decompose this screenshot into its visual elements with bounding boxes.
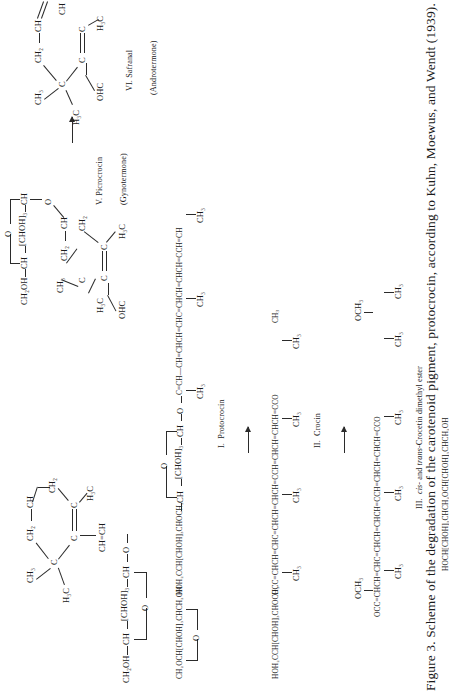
atom-ch3: CH₃ bbox=[196, 208, 205, 223]
label-compound-V-top: V. Picrocrocin bbox=[96, 157, 104, 205]
atom-c: C bbox=[78, 277, 87, 283]
ring-bridge bbox=[146, 573, 147, 598]
bond bbox=[38, 487, 50, 488]
atom-ch: CH bbox=[176, 425, 185, 437]
label-compound-V-top-sub: (Gynotermone) bbox=[120, 153, 128, 205]
figure-caption-text: Figure 3. Scheme of the degradation of t… bbox=[424, 11, 437, 691]
atom-ch3: CH₃ bbox=[292, 488, 301, 503]
label-I-roman: I. bbox=[217, 443, 226, 448]
atom-ch2: CH₂ bbox=[34, 48, 43, 63]
arrow-II-to-III bbox=[344, 427, 345, 453]
ring-bridge bbox=[166, 431, 177, 432]
bond bbox=[85, 75, 95, 91]
ring-bridge bbox=[10, 234, 11, 264]
atom-ch: CH bbox=[20, 193, 29, 205]
bond bbox=[127, 579, 128, 587]
polyene-chain-III: OCC=CHCH=CHC=CHCH=CHCH=CCH=CHCH=CHCH=CCO bbox=[374, 416, 381, 617]
bond bbox=[44, 88, 59, 100]
atom-ch3: CH₃ bbox=[292, 566, 301, 581]
atom-o: O bbox=[141, 605, 150, 611]
atom-ch3: CH₃ bbox=[34, 90, 43, 105]
atom-o: O bbox=[160, 463, 169, 469]
polyene-chain-II: OCC=CHCH=CHC=CHCH=CHCH=CCH=CHCH=CHCH=CCO bbox=[272, 394, 279, 595]
atom-och3-right: OCH₃ bbox=[354, 300, 363, 321]
atom-ch3: CH₃ bbox=[292, 334, 301, 349]
bond bbox=[86, 63, 87, 75]
atom-choh3: [CHOH]₃ bbox=[120, 588, 129, 621]
polyene-chain-I: C=CH—CH=CHCH=CHC=CHCH=CHCH=CCH=CH bbox=[176, 227, 183, 395]
atom-c: C bbox=[58, 81, 67, 87]
ring-bridge bbox=[10, 200, 11, 224]
atom-ch3: CH₃ bbox=[394, 486, 403, 501]
ring-bridge bbox=[186, 609, 198, 610]
atom-c: C bbox=[70, 502, 79, 508]
atom-ch3-terminal: CH₃ bbox=[394, 284, 403, 299]
bond bbox=[127, 554, 128, 562]
atom-ohc: OHC bbox=[96, 83, 105, 101]
atom-c: C bbox=[50, 559, 59, 565]
ring-bridge bbox=[10, 199, 20, 200]
atom-ch3: CH₃ bbox=[26, 568, 35, 583]
label-compound-II: II. Crocin bbox=[314, 413, 322, 448]
formula-gentiobiosyl-crocin: HOH₂CCH[CHOH]₃CHOCH₂ bbox=[272, 586, 279, 679]
atom-ch: CH bbox=[60, 217, 69, 229]
bond bbox=[127, 646, 128, 655]
bond bbox=[181, 396, 182, 403]
bond bbox=[384, 292, 394, 293]
label-II-roman: II. bbox=[313, 440, 322, 448]
atom-ch3: CH₃ bbox=[196, 292, 205, 307]
double-bond bbox=[76, 509, 77, 531]
rotated-figure-canvas: CH₃ H₃C C CH₂ CH C C CH₂ H₃C CH=CH CH₂OH… bbox=[0, 0, 449, 691]
atom-choh3: [CHOH]₃ bbox=[174, 446, 183, 479]
bond bbox=[181, 438, 182, 445]
bond bbox=[25, 246, 26, 253]
bond bbox=[88, 279, 96, 294]
bond bbox=[25, 269, 26, 277]
atom-ch3: CH₃ bbox=[196, 384, 205, 399]
bond bbox=[30, 199, 42, 200]
ring-bridge bbox=[166, 497, 177, 498]
scheme-sheet: CH₃ H₃C C CH₂ CH C C CH₂ H₃C CH=CH CH₂OH… bbox=[0, 0, 449, 691]
bond bbox=[58, 488, 69, 501]
bond bbox=[181, 414, 182, 421]
label-compound-I: I. Protocrocin bbox=[218, 399, 226, 448]
ring-bridge bbox=[197, 610, 198, 630]
atom-ch2: CH₂ bbox=[26, 526, 35, 541]
formula-gentiobiosyl-crocin-2: CH3 bbox=[272, 310, 280, 323]
bond bbox=[84, 231, 99, 243]
atom-o: O bbox=[192, 635, 201, 641]
bond bbox=[364, 590, 373, 591]
atom-o: O bbox=[4, 231, 13, 237]
atom-h3c: H₃C bbox=[72, 110, 81, 125]
double-bond bbox=[102, 251, 103, 271]
bond bbox=[181, 503, 182, 511]
double-bond bbox=[80, 33, 81, 53]
atom-h3c: H₃C bbox=[96, 298, 105, 313]
ring-bridge bbox=[146, 608, 147, 640]
bond bbox=[36, 568, 51, 580]
atom-ch2: CH₂ bbox=[48, 478, 57, 493]
bond bbox=[364, 312, 373, 313]
atom-ch3: CH₃ bbox=[292, 412, 301, 427]
bond bbox=[58, 568, 65, 585]
bond bbox=[127, 621, 128, 629]
atom-ch2oh: CH₂OH bbox=[122, 655, 131, 683]
figure-page: CH₃ H₃C C CH₂ CH C C CH₂ H₃C CH=CH CH₂OH… bbox=[0, 0, 449, 691]
double-bond bbox=[72, 509, 73, 531]
bond bbox=[108, 283, 109, 295]
bond bbox=[39, 33, 40, 43]
ring-bridge bbox=[134, 572, 147, 573]
bond bbox=[25, 205, 26, 212]
atom-ch3: CH₃ bbox=[394, 564, 403, 579]
atom-ch2: CH₂ bbox=[78, 216, 87, 231]
bond bbox=[181, 479, 182, 486]
atom-choh3: [CHOH]₃ bbox=[18, 213, 27, 246]
atom-ch3: CH₃ bbox=[394, 410, 403, 425]
arrow-I-to-II bbox=[248, 427, 249, 453]
atom-ch: CH bbox=[176, 491, 185, 503]
atom-h3c-ring: H₃C bbox=[118, 224, 127, 239]
atom-ch2: CH₂ bbox=[60, 246, 69, 261]
bond bbox=[106, 231, 116, 242]
atom-ch2-terminal: CH bbox=[58, 3, 67, 15]
bond bbox=[43, 65, 57, 81]
